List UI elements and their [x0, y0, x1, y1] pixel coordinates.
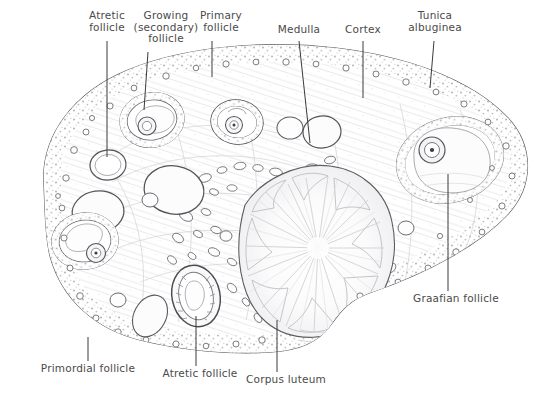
label-cortex: Cortex — [340, 24, 386, 36]
ovary-diagram-figure: Atretic follicle Growing (secondary) fol… — [0, 0, 556, 399]
label-primary-follicle: Primary follicle — [192, 10, 250, 33]
label-corpus-luteum: Corpus luteum — [240, 374, 332, 386]
label-primordial-follicle: Primordial follicle — [36, 363, 140, 375]
label-medulla: Medulla — [273, 24, 325, 36]
label-graafian-follicle: Graafian follicle — [408, 293, 504, 305]
label-tunica-albuginea: Tunica albuginea — [404, 10, 466, 33]
ovary-body — [44, 45, 528, 353]
oocyte-nucleus — [430, 148, 434, 152]
corpus-luteum — [239, 165, 395, 337]
label-atretic-follicle-bottom: Atretic follicle — [156, 368, 244, 380]
ovary-illustration — [0, 0, 556, 399]
